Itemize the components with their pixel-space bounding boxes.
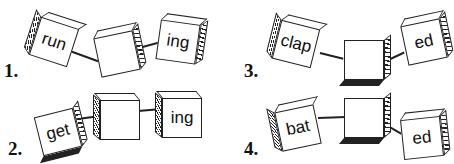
- blank-answer[interactable]: [93, 30, 140, 77]
- suffix-cube: ed: [400, 116, 444, 160]
- suffix-word: ing: [162, 98, 202, 138]
- blank-cube[interactable]: [344, 40, 384, 80]
- suffix-word: ed: [400, 116, 444, 160]
- blank-answer[interactable]: [344, 40, 384, 80]
- blank-answer[interactable]: [100, 100, 140, 140]
- connector-line: [70, 50, 99, 62]
- connector-line: [318, 116, 346, 118]
- base-word: clap: [272, 20, 320, 68]
- base-word-cube: run: [29, 17, 79, 67]
- base-word: bat: [274, 104, 321, 151]
- base-word-cube: get: [34, 108, 82, 156]
- blank-cube[interactable]: [93, 30, 140, 77]
- blank-answer[interactable]: [344, 98, 384, 138]
- suffix-word: ing: [155, 19, 200, 64]
- connector-line: [138, 108, 156, 111]
- puzzle-number: 4.: [244, 138, 258, 160]
- puzzle-number: 3.: [244, 60, 258, 82]
- base-word-cube: clap: [272, 20, 320, 68]
- blank-cube[interactable]: [100, 100, 140, 140]
- suffix-cube: ed: [400, 18, 447, 65]
- suffix-word: ed: [400, 18, 447, 65]
- puzzle-number: 1.: [4, 60, 18, 82]
- connector-line: [320, 52, 344, 59]
- blank-cube[interactable]: [344, 98, 384, 138]
- base-word-cube: bat: [274, 104, 321, 151]
- puzzle-number: 2.: [8, 138, 22, 160]
- suffix-cube: ing: [162, 98, 202, 138]
- suffix-cube: ing: [155, 19, 200, 64]
